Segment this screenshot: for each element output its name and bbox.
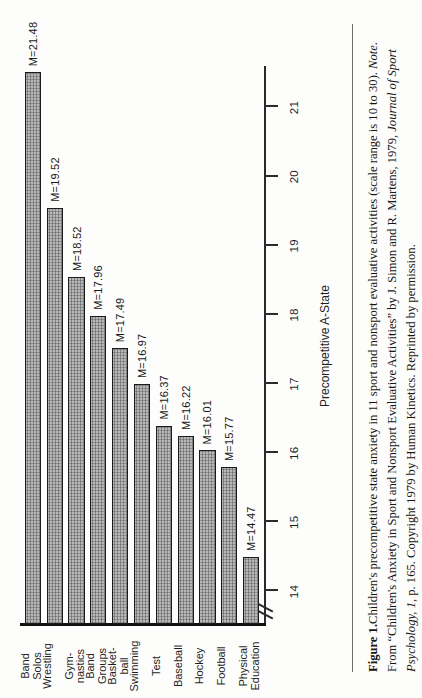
bar-chart: 1415161718192021 Precompetitive A-State … <box>0 0 340 698</box>
bar-series: M=14.47M=15.77M=16.01M=16.22M=16.37M=16.… <box>22 64 262 624</box>
category-label: BandGroups <box>85 634 109 698</box>
bar-value-label: M=17.96 <box>92 265 104 310</box>
bar <box>134 384 150 624</box>
axis-tick-label: 21 <box>288 92 300 122</box>
bar-row: M=18.52 <box>68 64 84 624</box>
caption-note-word: Note. <box>366 42 380 69</box>
axis-tick-label: 15 <box>288 507 300 537</box>
axis-tick-label: 18 <box>288 300 300 330</box>
bar-row: M=14.47 <box>243 64 259 624</box>
caption-divider <box>352 24 353 672</box>
axis-tick-mark <box>265 520 278 522</box>
figure-caption: Figure 1.Children's precompetitive state… <box>364 24 421 672</box>
bar-value-label: M=15.77 <box>223 417 235 462</box>
bar-value-label: M=17.49 <box>114 298 126 343</box>
axis-tick-label: 17 <box>288 369 300 399</box>
bar-value-label: M=18.52 <box>71 226 83 271</box>
category-label: Basket-ball <box>107 634 131 698</box>
caption-text-2: From “Children's Anxiety in Sport and No… <box>385 132 399 672</box>
category-label: PhysicalEducation <box>238 634 262 698</box>
bar-row: M=21.48 <box>25 64 41 624</box>
bar-value-label: M=16.22 <box>180 385 192 430</box>
bar-value-label: M=19.52 <box>49 157 61 202</box>
value-axis-title: Precompetitive A-State <box>318 66 332 626</box>
axis-tick-mark <box>265 313 278 315</box>
axis-tick-mark <box>265 451 278 453</box>
category-label: Baseball <box>173 634 185 698</box>
bar <box>156 426 172 624</box>
bar-value-label: M=14.47 <box>245 506 257 551</box>
bar-value-label: M=16.97 <box>136 334 148 379</box>
axis-tick-mark <box>265 589 278 591</box>
bar-row: M=17.49 <box>112 64 128 624</box>
axis-tick-label: 16 <box>288 438 300 468</box>
bar <box>199 450 215 624</box>
value-axis-line <box>264 66 266 626</box>
axis-tick-label: 20 <box>288 162 300 192</box>
caption-text-1: Children's precompetitive state anxiety … <box>366 69 380 624</box>
bar <box>25 72 41 624</box>
caption-text-3: , p. 165. Copyright 1979 by Human Kineti… <box>404 244 418 602</box>
category-label: Football <box>216 634 228 698</box>
bar-row: M=16.01 <box>199 64 215 624</box>
axis-tick-mark <box>265 382 278 384</box>
bar <box>68 277 84 624</box>
category-label: Gym-nastics <box>64 634 88 698</box>
bar-row: M=19.52 <box>47 64 63 624</box>
bar <box>221 467 237 624</box>
scanned-page: 1415161718192021 Precompetitive A-State … <box>0 0 422 698</box>
axis-tick-label: 19 <box>288 231 300 261</box>
bar-row: M=16.97 <box>134 64 150 624</box>
category-label: Test <box>151 634 163 698</box>
bar-value-label: M=16.01 <box>201 400 213 445</box>
bar <box>112 348 128 624</box>
axis-tick-mark <box>265 244 278 246</box>
bar-value-label: M=21.48 <box>27 22 39 67</box>
bar-value-label: M=16.37 <box>158 375 170 420</box>
bar <box>47 208 63 624</box>
axis-tick-mark <box>265 105 278 107</box>
bar-row: M=16.22 <box>178 64 194 624</box>
category-labels: PhysicalEducationFootballHockeyBaseballT… <box>22 628 262 698</box>
bar <box>243 557 259 624</box>
bar-row: M=15.77 <box>221 64 237 624</box>
figure-label: Figure 1. <box>366 624 380 672</box>
figure-canvas: 1415161718192021 Precompetitive A-State … <box>0 0 422 698</box>
axis-tick-mark <box>265 175 278 177</box>
category-label: BandSolos <box>20 634 44 698</box>
bar-row: M=17.96 <box>90 64 106 624</box>
bar <box>90 316 106 624</box>
axis-tick-label: 14 <box>288 576 300 606</box>
bar <box>178 436 194 624</box>
bar-row: M=16.37 <box>156 64 172 624</box>
category-label: Hockey <box>194 634 206 698</box>
